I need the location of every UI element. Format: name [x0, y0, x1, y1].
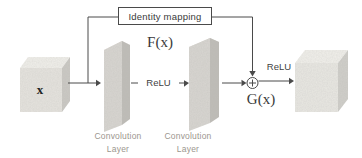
arrowhead-into-sum-top — [249, 71, 255, 77]
conv-layer-2-slab — [189, 38, 219, 131]
conv-layer-2-front-face — [189, 38, 210, 131]
conv-layer-1-label: Convolution Layer — [90, 130, 146, 156]
arrowhead-into-conv1 — [96, 80, 101, 86]
conv-layer-2-label-line1: Convolution — [160, 130, 216, 143]
arrowhead-into-sum-left — [242, 80, 247, 86]
conv-layer-1-slab — [104, 41, 130, 132]
arrowhead-into-output — [289, 78, 294, 84]
sum-plus-circle-icon — [247, 78, 258, 89]
input-cube-label: x — [33, 82, 47, 98]
conv-layer-1-side-face — [122, 41, 130, 125]
identity-mapping-label: Identity mapping — [129, 11, 202, 22]
g-of-x-label: G(x) — [241, 91, 281, 108]
conv-layer-1-label-line1: Convolution — [90, 130, 146, 143]
output-cube — [295, 50, 348, 112]
conv-layer-1-label-line2: Layer — [90, 143, 146, 156]
identity-mapping-box: Identity mapping — [118, 7, 212, 25]
f-of-x-label: F(x) — [140, 34, 180, 51]
conv-layer-2-label-line2: Layer — [160, 143, 216, 156]
conv-layer-1-front-face — [104, 41, 122, 132]
arrowhead-into-conv2 — [184, 80, 189, 86]
conv-layer-2-label: Convolution Layer — [160, 130, 216, 156]
relu-mid-label: ReLU — [138, 77, 179, 88]
output-cube-front-face — [295, 63, 338, 112]
conv-layer-2-side-face — [210, 38, 219, 123]
input-cube-top-face — [20, 57, 70, 68]
relu-output-label: ReLU — [259, 61, 299, 72]
residual-block-diagram: Identity mapping x F(x) ReLU ReLU G(x) C… — [0, 0, 362, 158]
